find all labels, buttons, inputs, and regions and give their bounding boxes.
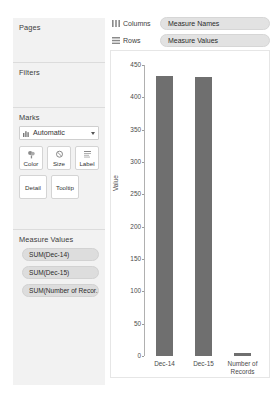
size-circle-icon	[55, 150, 64, 159]
rows-shelf[interactable]: Rows Measure Values	[110, 34, 270, 47]
chevron-down-icon[interactable]	[91, 132, 95, 135]
y-axis-tick-mark	[142, 162, 144, 163]
mark-buttons-row-2: Detail Tooltip	[19, 175, 99, 199]
y-axis-tick-label: 350	[119, 127, 141, 133]
marks-tooltip-button[interactable]: Tooltip	[51, 175, 79, 199]
y-axis-tick-mark	[142, 356, 144, 357]
measure-values-card: Measure Values SUM(Dec-14) SUM(Dec-15) S…	[13, 230, 105, 385]
marks-detail-label: Detail	[25, 184, 41, 191]
y-axis-tick-label: 150	[119, 256, 141, 262]
visualization-panel[interactable]: Value 450400350300250200150100500 Dec-14…	[110, 50, 270, 378]
marks-tooltip-label: Tooltip	[56, 184, 74, 191]
y-axis-tick-label: 200	[119, 224, 141, 230]
label-text-icon	[83, 150, 92, 159]
y-axis-title: Value	[112, 175, 119, 191]
columns-shelf-pill[interactable]: Measure Names	[160, 17, 270, 30]
color-palette-icon	[27, 150, 36, 159]
measure-value-pill[interactable]: SUM(Number of Recor..	[22, 284, 99, 297]
bar-chart-icon	[23, 130, 30, 137]
y-axis-ticks: 450400350300250200150100500	[119, 65, 141, 355]
rows-shelf-label: Rows	[121, 36, 160, 46]
y-axis-tick-label: 400	[119, 94, 141, 100]
y-axis-tick-label: 450	[119, 62, 141, 68]
measure-value-pill[interactable]: SUM(Dec-14)	[22, 248, 99, 261]
x-axis-tick-label: Number of Records	[223, 360, 262, 390]
shelf-container: Columns Measure Names Rows Measure Value…	[110, 17, 270, 51]
y-axis-tick-mark	[142, 194, 144, 195]
y-axis-tick-mark	[142, 227, 144, 228]
y-axis-tick-mark	[142, 291, 144, 292]
y-axis-tick-mark	[142, 259, 144, 260]
marks-detail-button[interactable]: Detail	[19, 175, 47, 199]
marks-label-label: Label	[79, 160, 94, 167]
x-axis-tick-label: Dec-14	[145, 360, 184, 390]
marks-size-label: Size	[53, 160, 65, 167]
measure-value-pill[interactable]: SUM(Dec-15)	[22, 266, 99, 279]
y-axis-tick-mark	[142, 97, 144, 98]
rows-shelf-pill[interactable]: Measure Values	[160, 34, 270, 47]
left-sidebar: Pages Filters Marks Automatic	[13, 18, 105, 385]
x-axis-labels: Dec-14Dec-15Number of Records	[145, 360, 262, 390]
mark-type-value: Automatic	[33, 127, 91, 139]
marks-size-button[interactable]: Size	[47, 146, 71, 170]
y-axis-tick-label: 250	[119, 191, 141, 197]
measure-values-title: Measure Values	[19, 235, 99, 245]
pages-card-title: Pages	[19, 23, 99, 33]
columns-shelf[interactable]: Columns Measure Names	[110, 17, 270, 30]
y-axis-tick-label: 100	[119, 288, 141, 294]
rows-icon	[110, 37, 121, 44]
columns-icon	[110, 20, 121, 27]
y-axis-tick-label: 50	[119, 321, 141, 327]
mark-buttons-row-1: Color Size	[19, 146, 99, 170]
filters-card-title: Filters	[19, 68, 99, 78]
y-axis-tick-mark	[142, 130, 144, 131]
marks-color-button[interactable]: Color	[19, 146, 43, 170]
y-axis-tick-mark	[142, 65, 144, 66]
marks-label-button[interactable]: Label	[75, 146, 99, 170]
bars-container	[145, 65, 262, 356]
pages-card[interactable]: Pages	[13, 18, 105, 63]
bar[interactable]	[234, 353, 251, 356]
x-axis-tick-label: Dec-15	[184, 360, 223, 390]
filters-card[interactable]: Filters	[13, 63, 105, 108]
tableau-worksheet: Pages Filters Marks Automatic	[0, 0, 276, 406]
mark-type-dropdown[interactable]: Automatic	[19, 126, 99, 140]
columns-shelf-label: Columns	[121, 19, 160, 29]
marks-card: Marks Automatic	[13, 108, 105, 230]
marks-color-label: Color	[24, 160, 39, 167]
bar[interactable]	[156, 76, 173, 356]
plot-area: Value 450400350300250200150100500 Dec-14…	[111, 51, 269, 377]
marks-card-title: Marks	[19, 113, 99, 123]
bar[interactable]	[195, 77, 212, 356]
y-axis-tick-label: 300	[119, 159, 141, 165]
y-axis-tick-mark	[142, 324, 144, 325]
y-axis-tick-label: 0	[119, 353, 141, 359]
